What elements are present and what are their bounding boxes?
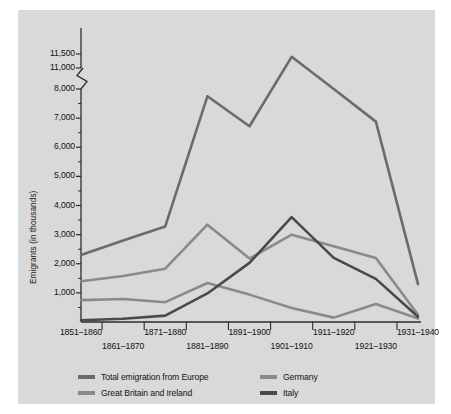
legend-swatch-icon [78, 375, 95, 378]
legend-item: Total emigration from Europe [78, 370, 209, 384]
series-line-0 [81, 57, 418, 284]
chart-panel: Emigrants (in thousands) 1,0002,0003,000… [18, 10, 435, 404]
legend-label: Germany [283, 372, 318, 382]
legend-swatch-icon [260, 375, 277, 378]
legend-swatch-icon [78, 391, 95, 394]
y-axis-break-symbol [77, 68, 87, 89]
chart-legend: Total emigration from EuropeGreat Britai… [78, 370, 408, 404]
plot-area [18, 10, 435, 404]
legend-item: Italy [260, 386, 298, 400]
legend-label: Great Britain and Ireland [101, 388, 192, 398]
series-line-1 [81, 283, 418, 319]
legend-swatch-icon [260, 391, 277, 394]
legend-item: Great Britain and Ireland [78, 386, 192, 400]
series-line-3 [81, 217, 418, 320]
legend-label: Italy [283, 388, 298, 398]
legend-item: Germany [260, 370, 318, 384]
chart-figure: Emigrants (in thousands) 1,0002,0003,000… [0, 0, 451, 414]
legend-label: Total emigration from Europe [101, 372, 209, 382]
